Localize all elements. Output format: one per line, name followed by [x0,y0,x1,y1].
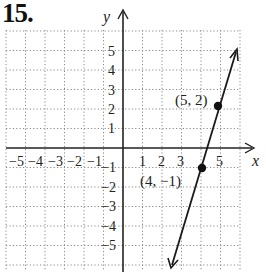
x-tick: −2 [67,154,82,169]
coordinate-plane: y x −5 −4 −3 −2 −1 1 2 3 5 5 4 3 2 1 −1 … [0,0,266,279]
y-axis-label: y [101,8,111,26]
x-tick: −5 [9,154,24,169]
y-tick: 4 [108,63,115,78]
point-label-4-neg1: (4, −1) [140,173,181,190]
y-tick: −2 [101,180,116,195]
y-tick: 1 [108,121,115,136]
x-tick: 2 [158,154,165,169]
x-tick: −3 [48,154,63,169]
y-axis [118,10,128,272]
x-tick: 3 [177,154,184,169]
y-tick: 3 [108,83,115,98]
x-axis [6,143,254,153]
y-tick: −3 [101,199,116,214]
point-label-5-2: (5, 2) [175,92,208,109]
point-4-neg1 [198,164,206,172]
y-tick: 2 [108,102,115,117]
x-axis-label: x [251,152,259,169]
x-tick: 5 [216,154,223,169]
y-tick: 5 [108,44,115,59]
x-tick: −4 [28,154,43,169]
x-tick: 1 [139,154,146,169]
point-5-2 [214,102,222,110]
y-tick: −4 [101,219,116,234]
y-tick: −1 [101,160,116,175]
x-tick: −1 [87,154,102,169]
y-tick: −5 [101,238,116,253]
